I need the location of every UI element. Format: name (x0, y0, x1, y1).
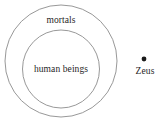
set-label-mortals: mortals (46, 16, 75, 26)
euler-diagram: mortals human beings Zeus (0, 0, 162, 124)
set-label-human-beings: human beings (34, 65, 88, 75)
zeus-point-marker (142, 57, 147, 62)
diagram-canvas (0, 0, 162, 124)
point-label-zeus: Zeus (136, 67, 155, 77)
